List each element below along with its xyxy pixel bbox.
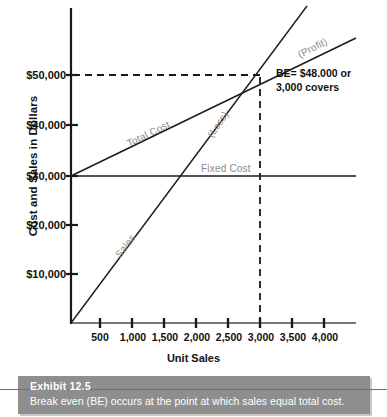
break-even-annotation-line2: 3,000 covers xyxy=(276,80,351,94)
exhibit-caption: Exhibit 12.5 Break even (BE) occurs at t… xyxy=(18,376,370,414)
x-tick-label-1000: 1,000 xyxy=(120,331,146,343)
y-axis-title: Cost and Sales in Dollars xyxy=(27,71,39,261)
break-even-annotation: BE= $48.000 or 3,000 covers xyxy=(276,66,351,94)
sales-line xyxy=(71,6,307,323)
x-tick-label-1500: 1,500 xyxy=(152,331,178,343)
y-tick-label-20000: $20,000 xyxy=(2,219,66,231)
fixed-cost-label: Fixed Cost xyxy=(201,163,251,174)
total-cost-line xyxy=(71,38,356,176)
x-axis-title: Unit Sales xyxy=(0,352,387,364)
x-tick-label-2000: 2,000 xyxy=(184,331,210,343)
y-tick-label-30000: $30,000 xyxy=(2,170,66,182)
x-tick-label-3000: 3,000 xyxy=(248,331,274,343)
y-tick-label-10000: $10,000 xyxy=(2,268,66,280)
x-tick-label-2500: 2,500 xyxy=(216,331,242,343)
exhibit-number: Exhibit 12.5 xyxy=(30,380,91,392)
y-tick-label-40000: $40,000 xyxy=(2,119,66,131)
exhibit-description: Break even (BE) occurs at the point at w… xyxy=(30,395,344,407)
x-tick-label-4000: 4,000 xyxy=(312,331,338,343)
break-even-annotation-line1: BE= $48.000 or xyxy=(276,66,351,80)
x-tick-label-3500: 3,500 xyxy=(280,331,306,343)
break-even-chart: Cost and Sales in Dollars $10,000 $20,00… xyxy=(0,0,387,417)
x-tick-label-500: 500 xyxy=(91,331,109,343)
y-tick-label-50000: $50,000 xyxy=(2,69,66,81)
